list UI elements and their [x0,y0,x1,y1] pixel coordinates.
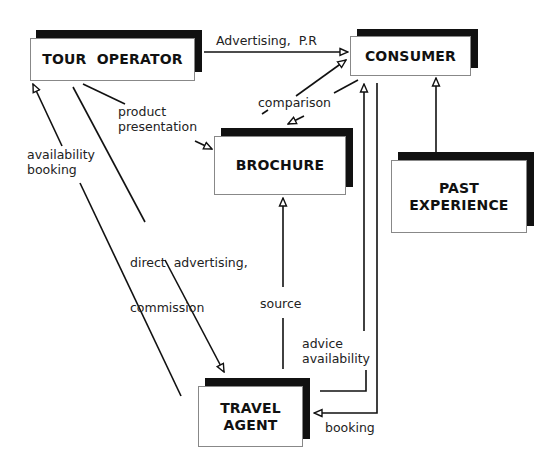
edge-agent-to-tour-a [33,84,62,146]
node-label-line2: EXPERIENCE [409,197,508,214]
edge-label-line2: presentation [118,119,197,134]
edge-label-line2: availability [302,351,370,366]
node-label-line1: PAST [439,180,479,197]
node-box: CONSUMER [350,36,471,76]
edge-label-availability-booking: availability booking [27,147,95,177]
edge-agent-to-consumer-a [320,370,366,391]
edge-label-line1: direct advertising, [130,255,248,270]
node-label: TOUR OPERATOR [42,51,183,68]
edge-label-line1: product [118,104,197,119]
edge-label-advertising: Advertising, P.R [216,33,317,48]
edge-label-direct-advertising: direct advertising, commission [130,225,248,330]
node-label-line1: TRAVEL [220,400,281,417]
node-box: TRAVEL AGENT [198,386,303,447]
node-travel-agent: TRAVEL AGENT [198,378,310,448]
node-label: CONSUMER [365,48,456,65]
node-brochure: BROCHURE [214,128,353,195]
edge-consumer-to-brochure-c [288,116,304,124]
edge-label-advice-availability: advice availability [302,336,370,366]
node-box: PAST EXPERIENCE [391,160,527,233]
edge-consumer-to-brochure-b [262,110,268,114]
edge-tour-to-brochure-a [83,84,125,104]
edge-label-line1: availability [27,147,95,162]
edge-label-line2: booking [27,162,95,177]
node-box: BROCHURE [214,136,346,195]
node-box: TOUR OPERATOR [30,38,195,81]
node-label-line2: AGENT [223,417,277,434]
node-past-experience: PAST EXPERIENCE [391,152,534,234]
edge-label-comparison: comparison [258,95,331,110]
node-consumer: CONSUMER [350,29,478,77]
edge-label-line1: advice [302,336,370,351]
edge-label-product-presentation: product presentation [118,104,197,134]
edge-label-booking: booking [325,420,375,435]
edge-tour-to-brochure-b [195,141,212,149]
edge-consumer-to-brochure-a [334,80,358,93]
edge-label-source: source [260,296,302,311]
node-label: BROCHURE [236,157,325,174]
node-tour-operator: TOUR OPERATOR [30,30,202,82]
edge-label-line2: commission [130,300,248,315]
